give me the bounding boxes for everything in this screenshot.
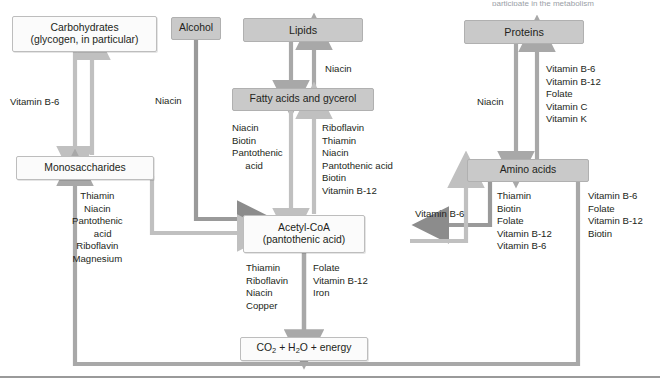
node-alcohol-label: Alcohol bbox=[179, 22, 213, 34]
node-amino-acids[interactable]: Amino acids bbox=[467, 159, 589, 182]
label-monosaccharides-to-acetyl-list: Thiamin Niacin Pantothenic acid Riboflav… bbox=[72, 190, 123, 266]
node-fatty-acids-and-glycerol[interactable]: Fatty acids and gycerol bbox=[232, 88, 374, 111]
label-lipids-down-list: Niacin Biotin Pantothenic acid bbox=[232, 122, 283, 172]
label-acetyl-to-amino-list: Vitamin B-6 Folate Vitamin B-12 Biotin bbox=[588, 190, 643, 240]
node-end-products-label: CO2 + H2O + energy bbox=[257, 342, 352, 355]
metabolism-diagram: participate in the metabolism bbox=[0, 0, 660, 382]
label-proteins-amino-cofactor: Niacin bbox=[477, 96, 504, 107]
node-lipids[interactable]: Lipids bbox=[243, 18, 363, 42]
node-lipids-label: Lipids bbox=[289, 24, 317, 37]
node-alcohol[interactable]: Alcohol bbox=[171, 17, 221, 40]
node-proteins-label: Proteins bbox=[504, 26, 544, 39]
label-acetyl-down-left-list: Thiamin Riboflavin Niacin Copper bbox=[246, 262, 288, 312]
node-amino-acids-label: Amino acids bbox=[500, 164, 557, 176]
label-fatty-up-list: Riboflavin Thiamin Niacin Pantothenic ac… bbox=[322, 122, 393, 198]
label-acetyl-down-right-list: Folate Vitamin B-12 Iron bbox=[313, 262, 368, 300]
node-acetyl-coa[interactable]: Acetyl-CoA (pantothenic acid) bbox=[243, 215, 365, 253]
node-fatty-acids-label: Fatty acids and gycerol bbox=[250, 93, 357, 105]
label-acetyl-to-amino-b6: Vitamin B-6 bbox=[415, 208, 464, 219]
node-acetyl-coa-line1: Acetyl-CoA bbox=[263, 222, 346, 234]
label-carbs-monosaccharides-cofactor: Vitamin B-6 bbox=[10, 96, 59, 107]
label-alcohol-cofactor: Niacin bbox=[155, 95, 182, 106]
node-monosaccharides[interactable]: Monosaccharides bbox=[16, 156, 154, 180]
label-fatty-to-lipids-cofactor: Niacin bbox=[325, 63, 352, 74]
node-carbohydrates[interactable]: Carbohydrates (glycogen, in particular) bbox=[12, 16, 157, 52]
node-carbohydrates-line1: Carbohydrates bbox=[31, 22, 139, 34]
node-proteins[interactable]: Proteins bbox=[464, 20, 584, 44]
node-carbohydrates-line2: (glycogen, in particular) bbox=[31, 34, 139, 46]
label-amino-to-acetyl-list: Thiamin Biotin Folate Vitamin B-12 Vitam… bbox=[497, 190, 552, 253]
caption-fragment: participate in the metabolism bbox=[492, 0, 660, 6]
label-amino-to-proteins-list: Vitamin B-6 Vitamin B-12 Folate Vitamin … bbox=[546, 63, 601, 126]
node-acetyl-coa-line2: (pantothenic acid) bbox=[263, 234, 346, 246]
node-monosaccharides-label: Monosaccharides bbox=[44, 162, 125, 174]
node-end-products[interactable]: CO2 + H2O + energy bbox=[240, 337, 368, 361]
